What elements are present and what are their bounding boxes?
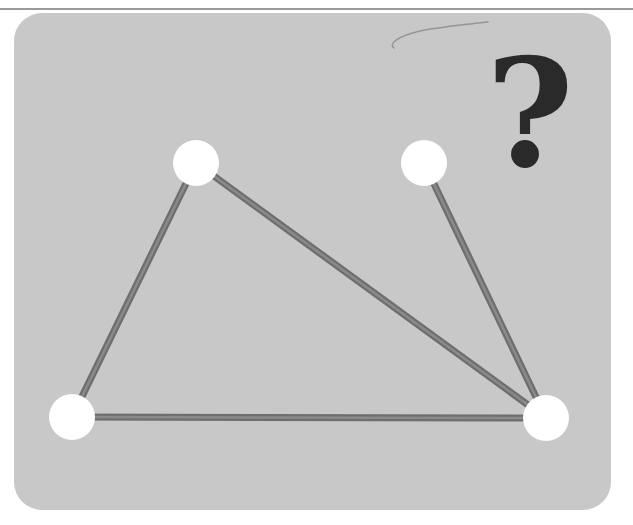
- graph-edge-highlight: [72, 417, 546, 418]
- question-mark-icon: ?: [470, 38, 590, 188]
- graph-node-n1: [173, 140, 219, 186]
- graph-node-n4: [523, 395, 569, 441]
- graph-edge-highlight: [196, 163, 546, 418]
- graph-node-n2: [401, 140, 447, 186]
- graph-edge-highlight: [72, 163, 196, 417]
- graph-edges: [72, 163, 546, 418]
- graph-node-n3: [49, 394, 95, 440]
- graph-edge-highlight: [424, 163, 546, 418]
